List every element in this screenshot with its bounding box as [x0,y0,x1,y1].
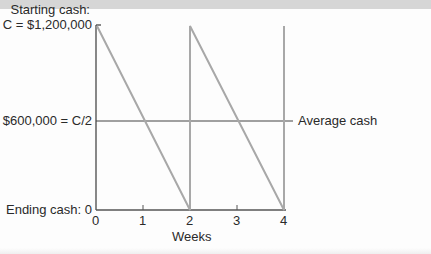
cash-balance-sawtooth [97,26,284,210]
x-tick-label-3: 3 [233,214,240,228]
starting-cash-value: C = $1,200,000 [0,18,92,32]
bottom-fade [0,248,431,254]
x-tick-label-2: 2 [186,214,193,228]
average-cash-label: Average cash [298,114,377,128]
x-axis-title: Weeks [172,230,212,244]
starting-cash-label: Starting cash: [0,3,90,17]
x-tick-label-4: 4 [280,214,287,228]
half-cash-label: $600,000 = C/2 [0,114,92,128]
x-tick-label-0: 0 [92,214,99,228]
ending-cash-label: Ending cash: 0 [0,203,92,217]
x-tick-label-1: 1 [139,214,146,228]
